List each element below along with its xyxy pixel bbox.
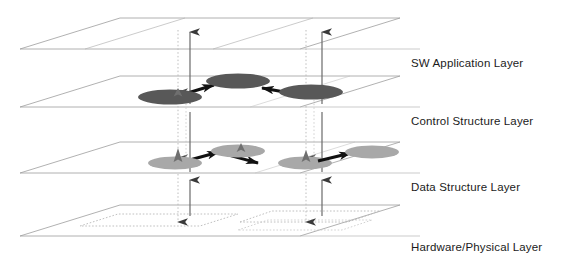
control-node-c3[interactable] (279, 85, 343, 100)
layer-label-data-structure: Data Structure Layer (411, 181, 520, 193)
vertical-connectors-solid (190, 32, 322, 216)
layer-label-hardware-physical: Hardware/Physical Layer (411, 241, 542, 253)
plane-outline-data-structure (20, 142, 400, 173)
layer-plane-hardware-physical (20, 205, 420, 236)
layer-label-sw-application: SW Application Layer (411, 57, 523, 69)
layer-plane-sw-application (20, 18, 420, 49)
diagram-canvas: SW Application Layer Control Structure L… (0, 0, 563, 266)
control-node-c2[interactable] (206, 74, 270, 89)
data-node-d4[interactable] (345, 146, 399, 159)
plane-outline-sw-application (20, 18, 400, 49)
layered-architecture-diagram (0, 0, 563, 266)
vertical-connectors-dotted (178, 30, 314, 222)
plane-outline-hardware-physical (20, 205, 400, 236)
control-node-c1[interactable] (138, 90, 202, 105)
layer-label-control-structure: Control Structure Layer (411, 115, 533, 127)
